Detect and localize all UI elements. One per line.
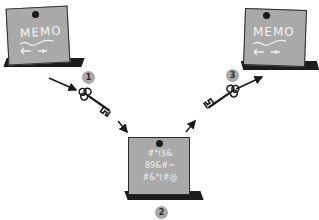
key-icon (204, 82, 242, 114)
arrow-icon (186, 121, 195, 132)
arrow-icon (118, 121, 127, 132)
step-badge-1: 1 (82, 71, 95, 84)
step-badge-2: 2 (155, 206, 168, 219)
key-icon (76, 85, 114, 117)
flow-arrows (0, 0, 319, 220)
arrow-icon (49, 78, 76, 90)
arrow-icon (236, 77, 262, 89)
step-badge-3: 3 (226, 69, 239, 82)
